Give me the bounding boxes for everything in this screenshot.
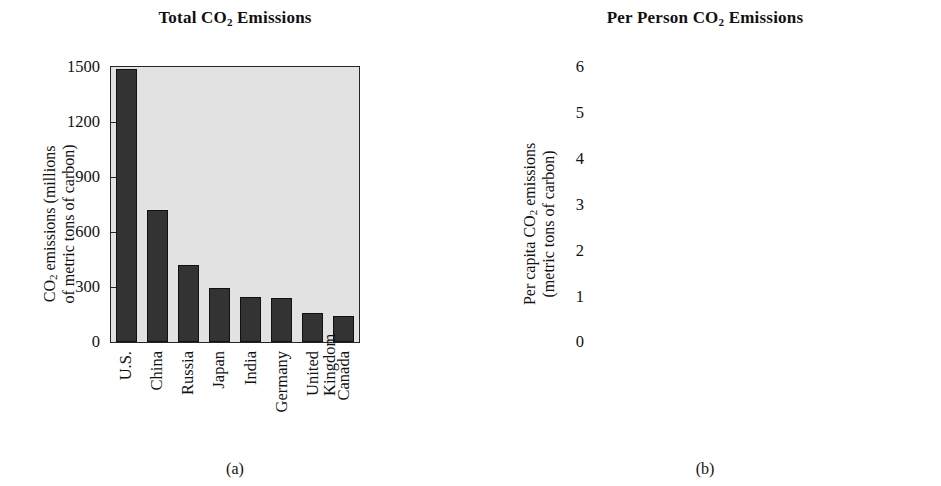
- x-axis-label: India: [242, 351, 259, 385]
- y-tick-label: 5: [576, 103, 584, 123]
- x-axis-label: Russia: [179, 351, 196, 395]
- x-label-slot: India: [235, 347, 266, 457]
- x-label-slot: U.S.: [110, 347, 141, 457]
- bar: [178, 265, 198, 342]
- panel-a-x-axis-labels: U.S.ChinaRussiaJapanIndiaGermanyUnitedKi…: [110, 347, 360, 457]
- y-tick-label: 600: [75, 222, 100, 242]
- panel-a-title-pre: Total CO: [158, 8, 227, 27]
- bar-slot: [266, 67, 297, 342]
- x-axis-label: U.S.: [117, 351, 134, 380]
- y-tick-label: 3: [576, 195, 584, 215]
- y-tick-label: 0: [92, 332, 100, 352]
- bar: [147, 210, 167, 342]
- panel-b-y-axis: 6 5 4 3 2 1 0: [510, 0, 584, 486]
- y-tick-label: 1500: [67, 57, 100, 77]
- y-tick-label: 0: [576, 332, 584, 352]
- bar: [116, 69, 136, 342]
- two-panel-bar-chart-figure: Total CO2 Emissions CO2 emissions (milli…: [0, 0, 941, 486]
- bar: [240, 297, 260, 342]
- y-tick-label: 300: [75, 277, 100, 297]
- panel-b: Per Person CO2 Emissions Per capita CO2 …: [470, 0, 940, 486]
- panel-a-caption: (a): [0, 460, 470, 478]
- x-label-slot: Russia: [173, 347, 204, 457]
- x-axis-label: Canada: [336, 351, 353, 400]
- bar-slot: [173, 67, 204, 342]
- bar-slot: [111, 67, 142, 342]
- panel-a-bars: [111, 67, 359, 342]
- bar-slot: [297, 67, 328, 342]
- y-tick-label: 1200: [67, 112, 100, 132]
- x-axis-label: Germany: [273, 351, 290, 412]
- panel-b-caption: (b): [470, 460, 940, 478]
- panel-b-title-pre: Per Person CO: [607, 8, 719, 27]
- bar-slot: [328, 67, 359, 342]
- bar: [209, 288, 229, 342]
- bar: [302, 313, 322, 342]
- panel-a-plot-area: [110, 66, 360, 343]
- bar-slot: [235, 67, 266, 342]
- panel-a-title-post: Emissions: [233, 8, 312, 27]
- y-tick-label: 1: [576, 287, 584, 307]
- panel-b-title-post: Emissions: [724, 8, 803, 27]
- x-axis-label: UnitedKingdom: [304, 351, 321, 396]
- bar-slot: [204, 67, 235, 342]
- x-label-slot: Germany: [266, 347, 297, 457]
- panel-a-y-axis: 1500 1200 900 600 300 0: [26, 0, 100, 486]
- x-label-slot: Canada: [329, 347, 360, 457]
- y-tick-label: 4: [576, 149, 584, 169]
- bar-slot: [142, 67, 173, 342]
- x-label-slot: UnitedKingdom: [298, 347, 329, 457]
- x-axis-label: Japan: [211, 351, 228, 389]
- bar: [271, 298, 291, 342]
- panel-a: Total CO2 Emissions CO2 emissions (milli…: [0, 0, 470, 486]
- y-tick-label: 900: [75, 167, 100, 187]
- y-tick-label: 6: [576, 57, 584, 77]
- x-label-slot: Japan: [204, 347, 235, 457]
- x-axis-label: China: [148, 351, 165, 390]
- y-tick-label: 2: [576, 241, 584, 261]
- x-label-slot: China: [141, 347, 172, 457]
